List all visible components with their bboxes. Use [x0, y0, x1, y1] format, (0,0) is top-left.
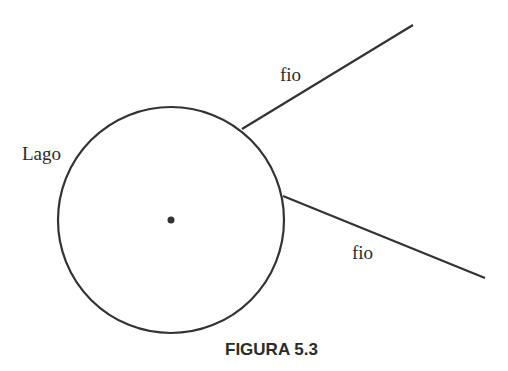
wire-label-upper: fio [280, 64, 301, 85]
center-point [168, 217, 175, 224]
lake-wire-diagram: Lago fio fio FIGURA 5.3 [0, 0, 508, 371]
figure-caption: FIGURA 5.3 [225, 340, 318, 359]
lake-label: Lago [22, 143, 61, 164]
wire-upper [242, 25, 413, 129]
wire-lower [283, 196, 485, 278]
wire-label-lower: fio [352, 242, 373, 263]
